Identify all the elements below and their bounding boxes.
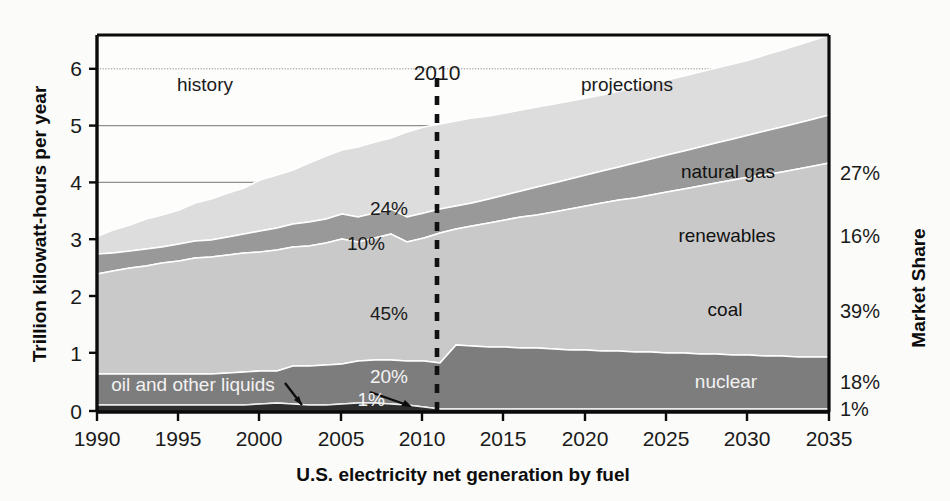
share-2010-renewables: 10%	[347, 233, 385, 254]
share-2010-natural-gas: 24%	[370, 198, 408, 219]
y-tick-6: 6	[70, 57, 82, 80]
y-tick-4: 4	[70, 171, 82, 194]
series-label-natural-gas: natural gas	[681, 161, 775, 182]
x-tick-2035: 2035	[806, 427, 853, 450]
series-label-nuclear: nuclear	[695, 371, 758, 392]
right-share-coal: 39%	[840, 300, 880, 322]
y-tick-2: 2	[70, 285, 82, 308]
x-axis-title: U.S. electricity net generation by fuel	[296, 464, 630, 485]
right-axis-title: Market Share	[908, 228, 929, 347]
history-label: history	[177, 74, 233, 95]
right-share-nuclear: 18%	[840, 371, 880, 393]
series-label-coal: coal	[708, 299, 743, 320]
share-2010-coal: 45%	[370, 303, 408, 324]
chart-figure: 6 5 4 3 2 1 0 Trillion kilowatt-hours pe…	[0, 0, 950, 501]
right-axis-share-labels: 27% 16% 39% 18% 1%	[840, 162, 880, 420]
x-tick-2005: 2005	[318, 427, 365, 450]
series-label-oil-and-other-liquids: oil and other liquids	[111, 374, 275, 395]
x-tick-1990: 1990	[74, 427, 121, 450]
y-tick-1: 1	[70, 342, 82, 365]
x-tick-2030: 2030	[724, 427, 771, 450]
y-axis-tick-labels: 6 5 4 3 2 1 0	[70, 57, 82, 423]
x-tick-2025: 2025	[643, 427, 690, 450]
right-share-renewables: 16%	[840, 225, 880, 247]
y-tick-5: 5	[70, 114, 82, 137]
right-share-natural-gas: 27%	[840, 162, 880, 184]
y-tick-0: 0	[70, 400, 82, 423]
x-axis-tick-labels: 1990 1995 2000 2005 2010 2015 2020 2025 …	[74, 427, 853, 450]
right-share-oil: 1%	[840, 398, 869, 420]
series-label-renewables: renewables	[678, 225, 775, 246]
x-tick-2015: 2015	[480, 427, 527, 450]
x-tick-2010: 2010	[399, 427, 446, 450]
x-tick-2000: 2000	[236, 427, 283, 450]
divider-year-label: 2010	[414, 61, 461, 84]
x-tick-1995: 1995	[155, 427, 202, 450]
share-2010-nuclear: 20%	[370, 366, 408, 387]
x-tick-2020: 2020	[562, 427, 609, 450]
projections-label: projections	[581, 74, 673, 95]
y-axis-title: Trillion kilowatt-hours per year	[29, 85, 50, 362]
area-chart-svg: 6 5 4 3 2 1 0 Trillion kilowatt-hours pe…	[0, 0, 950, 501]
y-tick-3: 3	[70, 228, 82, 251]
share-2010-oil: 1%	[358, 389, 386, 410]
